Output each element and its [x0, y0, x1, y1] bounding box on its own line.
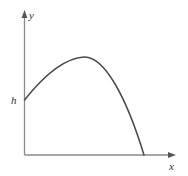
x-axis-label: x — [168, 160, 174, 172]
figure-background — [0, 0, 188, 176]
y-axis-label: y — [28, 9, 34, 21]
figure-container: y x h — [0, 0, 188, 176]
initial-height-label: h — [11, 94, 17, 106]
trajectory-figure: y x h — [0, 0, 188, 176]
